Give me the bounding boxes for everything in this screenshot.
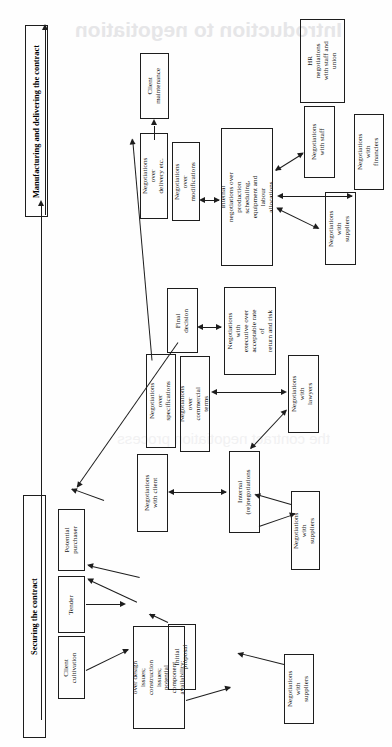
node-label: Negotiations over specifications: [149, 381, 173, 420]
node-negotiations-with-staff[interactable]: Negotiations with staff: [304, 106, 335, 178]
node-negotiations-with-executive[interactable]: Negotiations with executive over accepta…: [224, 287, 276, 375]
connector-internal-design-to-initial-proposal: [150, 614, 169, 623]
node-label: Tender: [68, 595, 76, 615]
node-client-cultivation[interactable]: Client cultivation: [58, 636, 85, 699]
diagram-canvas: Introduction to negotiation the contract…: [0, 0, 392, 747]
node-label: Internal negotiations over production sc…: [221, 172, 273, 222]
connector-suppliers-to-internal-design: [238, 653, 284, 665]
node-label: Client cultivation: [64, 652, 80, 683]
node-label: Negotiations over commercial terms: [180, 386, 210, 422]
connector-production-financiers-line: [281, 196, 352, 197]
connector-client-renegotiations-arrowhead-right: [221, 489, 227, 495]
connector-initial-proposal-to-purchaser-b: [88, 579, 137, 603]
node-negotiations-over-modifications[interactable]: Negotiations over modifications: [172, 142, 200, 221]
node-label: Negotiations over delivery etc.: [142, 158, 166, 194]
node-label: Negotiations with suppliers: [329, 210, 353, 246]
node-final-decision[interactable]: Final decision: [167, 288, 198, 353]
node-negotiations-suppliers-bottom[interactable]: Negotiations with suppliers: [284, 654, 314, 724]
timeline-arrowhead-manufacturing: [42, 24, 48, 30]
node-negotiations-with-financiers[interactable]: Negotiations with financiers: [354, 114, 384, 190]
connector-purchaser-to-negotiations-client: [72, 488, 104, 501]
node-label: Negotiations with staff: [312, 124, 328, 160]
connector-client-renegotiations-line: [170, 492, 226, 493]
timeline-arrowhead-main: [38, 200, 44, 206]
connector-commercial-lawyers-arrowhead-right: [281, 389, 287, 395]
node-label: Negotiations with suppliers: [294, 512, 318, 548]
connector-final-executive-arrowhead-left: [197, 324, 203, 330]
connector-production-financiers-arrowhead-right: [347, 193, 353, 199]
timeline-segment-main: [41, 206, 42, 720]
node-label: Negotiations with client: [145, 475, 161, 511]
connector-client-cultivation-to-internal-design: [86, 649, 129, 671]
connector-client-renegotiations-arrowhead-left: [168, 489, 174, 495]
node-label: Negotiations with suppliers: [287, 671, 311, 707]
phase-label-manufacturing: Manufacturing and delivering the contrac…: [32, 44, 41, 197]
node-label: Negotiations with financiers: [357, 134, 381, 170]
node-label: Final decision: [175, 309, 191, 333]
connector-modifications-production-arrowhead-left: [199, 197, 205, 203]
node-label: HR negotiations with staff and union: [307, 40, 339, 83]
node-tender[interactable]: Tender: [58, 576, 85, 633]
connector-production-financiers-arrowhead-left: [277, 193, 283, 199]
node-internal-negotiations-production[interactable]: Internal negotiations over production sc…: [221, 128, 273, 266]
connector-final-executive-arrowhead-right: [216, 324, 222, 330]
node-label: Negotiations with lawyers: [292, 376, 316, 412]
watermark-text: Introduction to negotiation: [42, 18, 342, 54]
node-negotiations-over-commercial-terms[interactable]: Negotiations over commercial terms: [180, 356, 210, 452]
node-negotiations-suppliers-top[interactable]: Negotiations with suppliers: [325, 192, 356, 265]
node-negotiations-over-delivery[interactable]: Negotiations over delivery etc.: [140, 133, 168, 219]
phase-bar-securing: Securing the contract: [23, 495, 46, 738]
node-label: Negotiations with executive over accepta…: [226, 306, 274, 356]
connector-commercial-lawyers-arrowhead-left: [211, 389, 217, 395]
connector-delivery-client-maintenance-line: [154, 126, 155, 140]
connector-commercial-lawyers-line: [215, 392, 285, 393]
phase-label-securing: Securing the contract: [30, 578, 39, 655]
node-hr-negotiations-staff-union[interactable]: HR negotiations with staff and union: [300, 19, 345, 103]
node-label: Negotiations over modifications: [174, 162, 198, 201]
connector-renegotiations-to-suppliers-mid: [259, 514, 295, 527]
connector-suppliers-mid-to-renegotiations: [255, 494, 291, 505]
node-label: Potential purchaser: [64, 526, 80, 554]
node-client-maintenance[interactable]: Client maintenance: [140, 53, 169, 119]
connector-modifications-production-arrowhead-right: [214, 197, 220, 203]
connector-production-suppliers-top: [277, 208, 319, 229]
connector-delivery-client-maintenance-arrowhead: [151, 119, 157, 125]
node-internal-negotiations-design[interactable]: Internal negotiations over design issues…: [133, 626, 185, 729]
connector-tender-line: [86, 604, 122, 605]
connector-initial-proposal-to-purchaser-a: [88, 565, 140, 578]
connector-tender-arrowhead: [120, 601, 126, 607]
connector-renegotiations-lawyers: [251, 410, 287, 449]
node-potential-purchaser[interactable]: Potential purchaser: [58, 509, 85, 571]
timeline-segment-manufacturing: [45, 30, 46, 215]
node-label: Internal (re)negotiations: [237, 469, 253, 514]
connector-production-staff: [276, 153, 304, 171]
node-label: Internal negotiations over design issues…: [133, 653, 185, 703]
node-negotiations-with-client[interactable]: Negotiations with client: [137, 454, 168, 532]
node-negotiations-over-specifications[interactable]: Negotiations over specifications: [146, 354, 176, 448]
node-label: Client maintenance: [147, 68, 163, 104]
node-negotiations-suppliers-mid[interactable]: Negotiations with suppliers: [291, 491, 320, 570]
node-negotiations-with-lawyers[interactable]: Negotiations with lawyers: [288, 355, 319, 433]
